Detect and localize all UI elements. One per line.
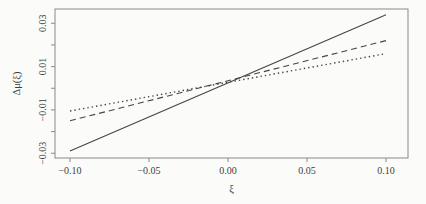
x-tick-label: 0.00 (219, 165, 237, 176)
line-chart-figure: −0.10−0.050.000.050.10−0.03−0.010.010.03… (0, 0, 426, 204)
x-tick-label: −0.10 (58, 165, 81, 176)
y-tick-label: 0.03 (37, 15, 48, 32)
x-tick-label: 0.10 (377, 165, 395, 176)
y-tick-label: −0.01 (37, 98, 48, 121)
x-axis-label: ξ (229, 183, 234, 195)
series-solid-line (70, 15, 386, 151)
y-tick-label: −0.03 (37, 142, 48, 165)
chart-canvas: −0.10−0.050.000.050.10−0.03−0.010.010.03… (0, 0, 426, 204)
x-tick-label: −0.05 (137, 165, 160, 176)
y-tick-label: 0.01 (37, 58, 48, 76)
plot-frame (55, 9, 408, 158)
x-tick-label: 0.05 (298, 165, 316, 176)
series-dashed-line (70, 41, 386, 121)
y-axis-label: Δμ(ξ) (11, 71, 23, 96)
